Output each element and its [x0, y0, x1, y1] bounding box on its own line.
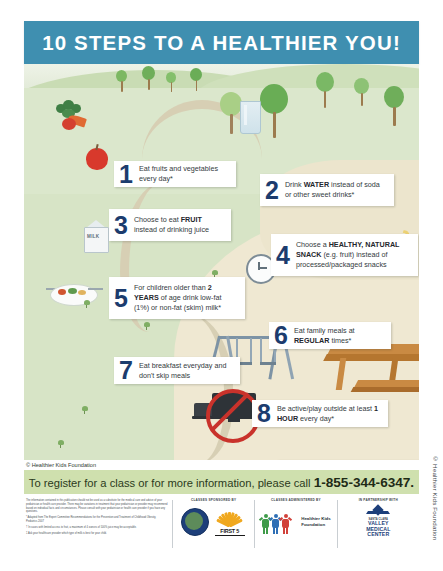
fine-print-line: * Adapted from The Expert Committee Reco… [26, 516, 168, 524]
water-glass-icon [240, 101, 260, 133]
step-text: Be active/play outside at least 1 HOUR e… [277, 404, 381, 424]
step-number: 3 [114, 213, 128, 238]
poster-header-band: 10 STEPS TO A HEALTHIER YOU! [24, 21, 419, 64]
step-text: Eat family meals at REGULAR times* [294, 326, 384, 346]
footer-column-administered: CLASSES ADMINISTERED BY [255, 496, 336, 552]
step-text: Eat fruits and vegetables every day* [139, 164, 229, 184]
step-number: 6 [274, 323, 288, 348]
scvmc-mark-icon [367, 506, 389, 517]
tree-icon [316, 72, 336, 108]
cta-phone-number[interactable]: 1-855-344-6347. [314, 475, 415, 490]
cta-message: To register for a class or for more info… [29, 477, 314, 489]
footer: The information contained in this public… [24, 496, 419, 552]
fine-print-line: ‡ Ask your healthcare provider which typ… [26, 532, 168, 536]
flower-icon [84, 300, 90, 308]
footer-column-heading: CLASSES ADMINISTERED BY [271, 498, 321, 502]
step-callout-5[interactable]: 5 For children older than 2 YEARS of age… [109, 277, 245, 319]
cta-text: To register for a class or for more info… [29, 475, 414, 490]
step-number: 2 [265, 178, 279, 203]
picnic-table-icon [324, 340, 419, 402]
call-to-action-band: To register for a class or for more info… [24, 470, 419, 494]
first-5-label: FIRST 5 [213, 528, 247, 534]
step-callout-8[interactable]: 8 Be active/play outside at least 1 HOUR… [252, 400, 388, 427]
step-text: Choose a HEALTHY, NATURAL SNACK (e.g. fr… [296, 240, 411, 270]
scene-copyright: © Healthier Kids Foundation [26, 462, 96, 468]
illustration-scene: MILK [24, 64, 419, 460]
page-title: 10 STEPS TO A HEALTHIER YOU! [42, 31, 401, 55]
step-callout-4[interactable]: 4 Choose a HEALTHY, NATURAL SNACK (e.g. … [271, 234, 418, 276]
fine-print-line: The information contained in this public… [26, 499, 168, 514]
tree-icon [116, 70, 128, 92]
step-callout-1[interactable]: 1 Eat fruits and vegetables every day* [114, 161, 236, 187]
tree-icon [354, 78, 370, 106]
step-callout-3[interactable]: 3 Choose to eat FRUIT instead of drinkin… [109, 209, 231, 241]
scvmc-line3: CENTER [356, 532, 400, 538]
county-seal-icon [181, 508, 209, 536]
fine-print-block: The information contained in this public… [24, 496, 172, 552]
healthier-kids-people-icon [261, 510, 297, 534]
flower-icon [82, 406, 88, 414]
step-text: Drink WATER instead of soda or other swe… [285, 180, 387, 200]
footer-column-sponsored: CLASSES SPONSORED BY FIRST [173, 496, 254, 552]
edge-copyright: © Healthier Kids Foundation [432, 455, 439, 540]
step-number: 8 [257, 401, 271, 426]
footer-column-heading: CLASSES SPONSORED BY [191, 498, 236, 502]
step-number: 7 [119, 358, 133, 383]
step-callout-2[interactable]: 2 Drink WATER instead of soda or other s… [260, 174, 394, 206]
step-number: 1 [119, 162, 133, 187]
footer-column-heading: IN PARTNERSHIP WITH [359, 498, 398, 502]
tree-icon [166, 72, 177, 92]
tomato-icon [62, 118, 76, 130]
step-number: 4 [276, 243, 290, 268]
step-text: Eat breakfast everyday and don't skip me… [139, 361, 233, 381]
sunburst-icon [216, 507, 242, 526]
flower-icon [144, 322, 150, 330]
healthier-kids-foundation-label: Healthier Kids Foundation [301, 516, 331, 528]
breakfast-plate-icon [46, 282, 102, 308]
first-5-logo: FIRST 5 [213, 507, 247, 537]
fine-print-line: † In cases with limited access to fruit,… [26, 526, 168, 530]
step-callout-6[interactable]: 6 Eat family meals at REGULAR times* [269, 322, 391, 349]
tree-icon [190, 68, 203, 91]
tree-icon [384, 86, 406, 126]
step-text: For children older than 2 YEARS of age d… [134, 283, 238, 313]
step-number: 5 [114, 286, 128, 311]
step-text: Choose to eat FRUIT instead of drinking … [134, 215, 224, 235]
flower-icon [58, 440, 64, 448]
footer-column-partnership: IN PARTNERSHIP WITH SANTA CLARA VALLEY M… [338, 496, 419, 552]
tree-icon [142, 66, 156, 90]
scvmc-logo: SANTA CLARA VALLEY MEDICAL CENTER [356, 506, 400, 538]
milk-carton-icon: MILK [84, 220, 108, 251]
tree-icon [260, 84, 290, 138]
poster-root: 10 STEPS TO A HEALTHIER YOU! [0, 0, 443, 571]
step-callout-7[interactable]: 7 Eat breakfast everyday and don't skip … [114, 357, 240, 384]
apple-icon [86, 148, 108, 170]
